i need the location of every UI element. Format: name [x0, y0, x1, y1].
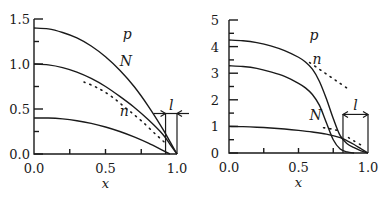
- y-tick-label: 0.5: [9, 102, 30, 117]
- interval-label: l: [353, 97, 357, 113]
- series-label-n: N: [309, 107, 323, 123]
- x-axis-label: x: [102, 176, 110, 191]
- interval-label: l: [169, 97, 173, 113]
- y-tick-label: 1.5: [9, 12, 30, 27]
- series-p-approx-line: [310, 63, 349, 90]
- x-tick-label: 0.0: [219, 160, 240, 175]
- series-n-tail-approx-line: [349, 138, 362, 145]
- y-tick-label: 0: [211, 146, 219, 161]
- axes: [229, 20, 368, 153]
- y-tick-label: 5: [211, 13, 219, 28]
- x-tick-label: 0.0: [24, 161, 45, 176]
- x-tick-label: 1.0: [358, 160, 379, 175]
- series-p-line: [229, 40, 368, 153]
- series-p-line: [34, 28, 177, 154]
- left-chart: 0.00.51.01.50.00.51.0xpNnl: [9, 12, 189, 191]
- y-tick-label: 1: [211, 119, 219, 134]
- series-label-n: N: [119, 53, 133, 69]
- series-n-line: [34, 64, 177, 154]
- x-tick-label: 0.5: [288, 160, 309, 175]
- series-n-line: [229, 66, 354, 153]
- series-label-p: p: [310, 27, 319, 43]
- y-tick-label: 4: [211, 40, 219, 55]
- series-label-p: p: [123, 26, 132, 42]
- y-tick-label: 2: [211, 93, 219, 108]
- series-n-line: [34, 118, 170, 154]
- figure: 0.00.51.01.50.00.51.0xpNnl 0123450.00.51…: [0, 0, 381, 199]
- series-label-n: n: [312, 51, 321, 67]
- y-tick-label: 0.0: [9, 147, 30, 162]
- y-tick-label: 1.0: [9, 57, 30, 72]
- series-label-n: n: [120, 103, 129, 119]
- right-chart: 0123450.00.51.0xpnNl: [211, 13, 379, 190]
- x-axis-label: x: [295, 175, 303, 190]
- x-tick-label: 1.0: [167, 161, 188, 176]
- x-tick-label: 0.5: [95, 161, 116, 176]
- y-tick-label: 3: [211, 66, 219, 81]
